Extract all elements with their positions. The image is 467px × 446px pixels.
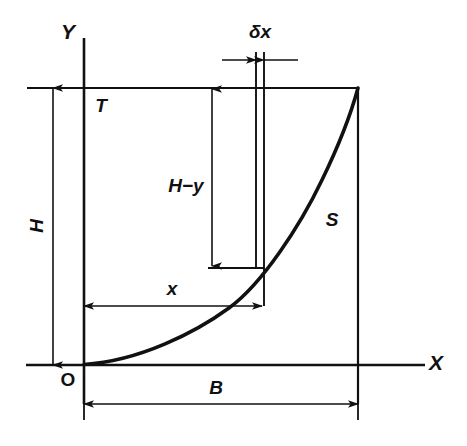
x-dimension-label: x [167,278,178,300]
element-width-label-delta-x: δx [249,21,271,43]
curve-label-s: S [326,209,339,231]
depth-dimension-label-h-minus-y: H−y [168,175,203,197]
breadth-dimension-label-b: B [209,377,223,399]
x-axis-label: X [429,351,443,375]
y-axis-label: Y [61,20,75,44]
parabola-curve-s [84,88,358,365]
top-corner-label-t: T [95,95,107,117]
figure-canvas: Y X O T S H B x H−y δx [0,0,467,446]
height-dimension-label-h: H [26,219,48,233]
origin-label: O [61,369,76,391]
